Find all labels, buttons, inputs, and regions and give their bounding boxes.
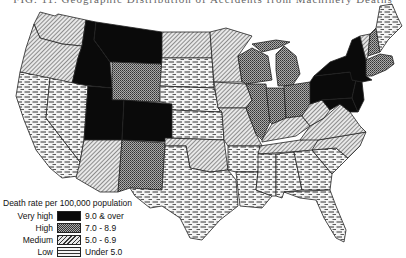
state-southern-new-england <box>366 54 394 76</box>
state-arkansas <box>228 146 260 172</box>
legend-label: Low <box>3 247 53 257</box>
legend-range: Under 5.0 <box>85 247 122 257</box>
legend-item-medium: Medium 5.0 - 6.9 <box>3 234 132 246</box>
state-new-mexico <box>118 140 165 192</box>
very-high-swatch <box>57 211 81 221</box>
legend-label: Very high <box>3 211 53 221</box>
state-south-dakota <box>160 58 214 88</box>
legend-item-high: High 7.0 - 8.9 <box>3 222 132 234</box>
legend-item-low: Low Under 5.0 <box>3 246 132 258</box>
map-legend: Death rate per 100,000 population Very h… <box>3 198 132 258</box>
state-mississippi <box>256 154 276 196</box>
legend-item-very-high: Very high 9.0 & over <box>3 210 132 222</box>
state-wisconsin <box>238 48 272 84</box>
state-michigan <box>276 46 300 86</box>
state-colorado <box>122 100 172 142</box>
legend-range: 7.0 - 8.9 <box>85 223 116 233</box>
legend-label: High <box>3 223 53 233</box>
state-arizona <box>76 140 122 192</box>
state-north-dakota <box>162 32 212 58</box>
high-swatch <box>57 223 81 233</box>
state-maine <box>376 4 402 52</box>
legend-label: Medium <box>3 235 53 245</box>
medium-swatch <box>57 235 81 245</box>
legend-range: 9.0 & over <box>85 211 124 221</box>
state-florida <box>284 190 346 242</box>
state-kansas <box>172 110 224 140</box>
state-wyoming <box>112 62 162 102</box>
legend-range: 5.0 - 6.9 <box>85 235 116 245</box>
low-swatch <box>57 247 81 257</box>
legend-title: Death rate per 100,000 population <box>3 198 132 208</box>
